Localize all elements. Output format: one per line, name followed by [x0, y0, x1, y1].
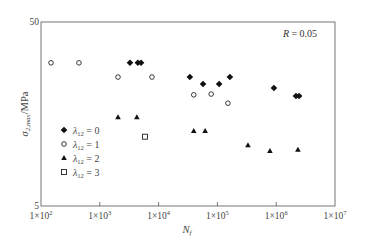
x-tick-label: 1×106 [265, 209, 289, 221]
open-circle-marker [150, 75, 155, 80]
y-tick-label: 5 [34, 201, 39, 211]
x-tick-label: 1×105 [206, 209, 229, 221]
open-square-marker [142, 134, 147, 139]
legend-label: λ12 = 2 [72, 153, 99, 165]
x-tick-label: 1×104 [147, 209, 171, 221]
x-tick-label: 1×103 [88, 209, 111, 221]
y-axis-title: σ2,max/MPa [19, 91, 32, 136]
r-ratio-annotation: R = 0.05 [282, 28, 317, 39]
open-circle-marker [62, 142, 67, 147]
x-tick-label: 1×107 [324, 209, 348, 221]
open-square-marker [62, 170, 67, 175]
legend-label: λ12 = 1 [72, 139, 99, 151]
open-circle-marker [77, 61, 82, 66]
x-tick-label: 1×102 [30, 209, 53, 221]
y-tick-label: 50 [30, 17, 40, 27]
y-axis-ticks: 550 [30, 17, 40, 211]
x-axis-subscript: f [190, 229, 193, 237]
sn-scatter-chart: 1×1021×1031×1041×1051×1061×107 550 σ2,ma… [0, 0, 367, 249]
open-circle-marker [191, 93, 196, 98]
open-circle-marker [49, 61, 54, 66]
plot-area-frame [41, 22, 335, 206]
series-open-square [142, 134, 147, 139]
legend-label: λ12 = 3 [72, 167, 99, 179]
y-axis-unit: /MPa [19, 91, 30, 114]
open-circle-marker [116, 75, 121, 80]
x-axis-title: Nf [182, 224, 193, 237]
legend-label: λ12 = 0 [72, 125, 99, 137]
y-axis-subscript: 2,max [24, 113, 32, 131]
open-circle-marker [209, 92, 214, 97]
annotation-value: = 0.05 [289, 28, 317, 39]
open-circle-marker [226, 101, 231, 106]
annotation-R: R [282, 28, 289, 39]
